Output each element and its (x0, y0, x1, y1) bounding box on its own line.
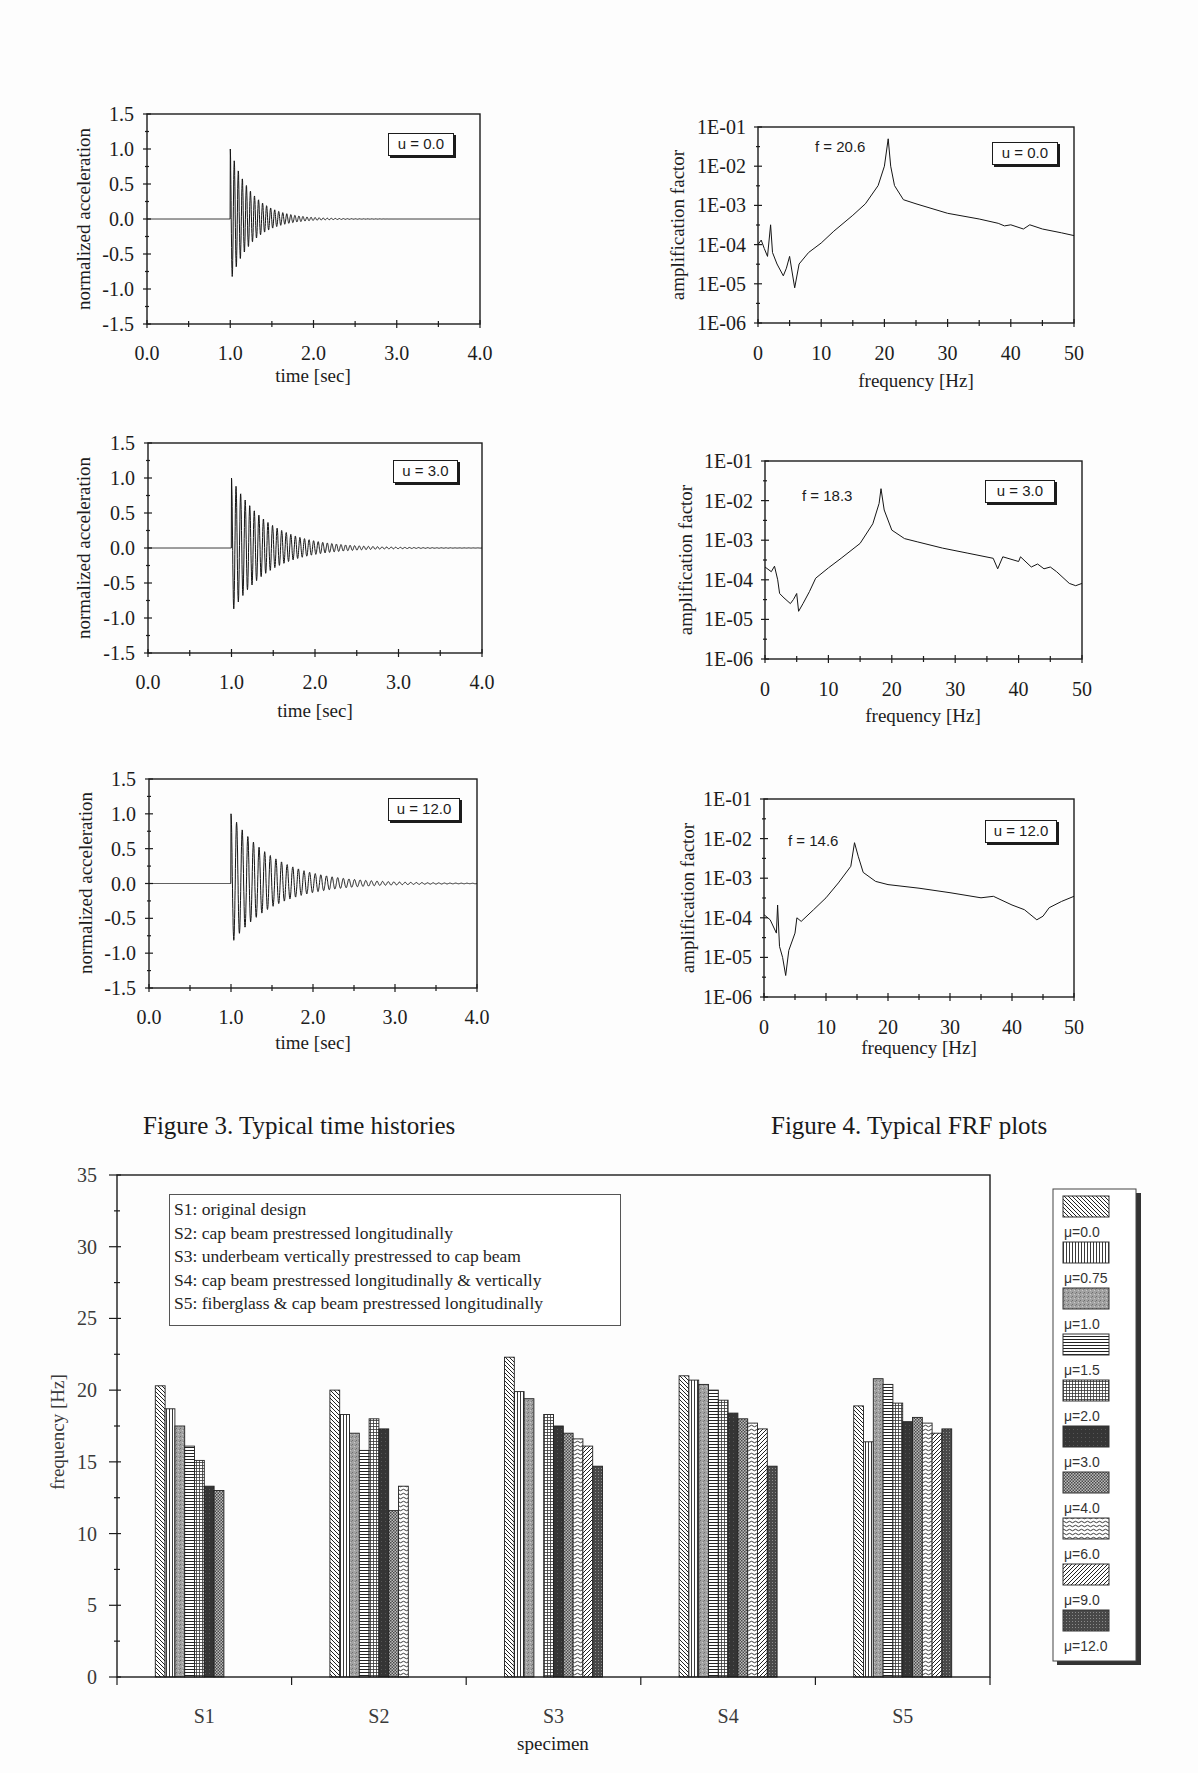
y-tick-label: 0.0 (110, 537, 135, 559)
y-tick-label: 0.5 (109, 173, 134, 195)
legend-label: μ=0.0 (1064, 1224, 1100, 1240)
bar (748, 1423, 758, 1677)
bar (593, 1466, 603, 1677)
y-tick-label: 1E-05 (697, 273, 746, 295)
bar (873, 1379, 883, 1677)
bar (932, 1433, 942, 1677)
figure-4-caption: Figure 4. Typical FRF plots (771, 1111, 1047, 1141)
bar (699, 1384, 709, 1677)
damping-annotation-box: u = 3.0 (393, 460, 458, 483)
x-tick-label: 20 (878, 1016, 898, 1038)
x-tick-label: 50 (1072, 678, 1092, 700)
x-tick-label: 0.0 (136, 671, 161, 693)
legend-label: μ=4.0 (1064, 1500, 1100, 1516)
bar (155, 1386, 165, 1677)
damping-annotation-box: u = 12.0 (985, 820, 1057, 843)
y-axis-title: normalized acceleration (76, 792, 95, 974)
bar (922, 1423, 932, 1677)
y-tick-label: 0.0 (109, 208, 134, 230)
frf-curve-line (765, 489, 1082, 612)
y-tick-label: 1E-05 (703, 946, 752, 968)
bar (185, 1446, 195, 1677)
y-tick-label: 0.0 (111, 873, 136, 895)
specimen-description-legend: S1: original design S2: cap beam prestre… (169, 1194, 621, 1326)
bar (738, 1419, 748, 1677)
x-axis-title: time [sec] (277, 701, 352, 720)
legend-label: μ=2.0 (1064, 1408, 1100, 1424)
bar (903, 1422, 913, 1677)
bar (175, 1426, 185, 1677)
y-tick-label: -1.0 (102, 278, 134, 300)
y-tick-label: -1.0 (103, 607, 135, 629)
x-tick-label: 0.0 (137, 1006, 162, 1028)
peak-frequency-label: f = 20.6 (815, 139, 865, 154)
damping-annotation-box: u = 12.0 (388, 798, 460, 821)
y-tick-label: 20 (77, 1379, 97, 1401)
bar (573, 1439, 583, 1677)
figure-3-caption: Figure 3. Typical time histories (143, 1111, 455, 1141)
y-tick-label: 1E-04 (697, 234, 746, 256)
x-axis-title: time [sec] (275, 1033, 350, 1052)
specimen-description: S2: cap beam prestressed longitudinally (174, 1222, 620, 1246)
acceleration-signal-line (148, 478, 482, 609)
x-tick-label: 40 (1002, 1016, 1022, 1038)
acceleration-signal-line (147, 149, 480, 277)
legend-swatch-gray-stipple (1063, 1288, 1109, 1309)
x-tick-label: 1.0 (219, 671, 244, 693)
y-tick-label: 1E-05 (704, 608, 753, 630)
bar (359, 1450, 369, 1677)
y-tick-label: 1.0 (111, 803, 136, 825)
bar (369, 1419, 379, 1677)
bar (350, 1433, 360, 1677)
bar (767, 1466, 777, 1677)
bar (165, 1409, 175, 1677)
x-tick-label: 40 (1009, 678, 1029, 700)
y-axis-title: amplification factor (676, 485, 695, 635)
bar (709, 1390, 719, 1677)
y-tick-label: 1E-03 (704, 529, 753, 551)
y-tick-label: 1E-03 (703, 867, 752, 889)
bar (583, 1446, 593, 1677)
y-tick-label: 1.5 (111, 768, 136, 790)
x-tick-label: 20 (874, 342, 894, 364)
y-tick-label: 1E-01 (703, 788, 752, 810)
x-tick-label: 3.0 (383, 1006, 408, 1028)
y-tick-label: 1E-06 (703, 986, 752, 1008)
x-axis-title: frequency [Hz] (865, 706, 981, 725)
specimen-description: S5: fiberglass & cap beam prestressed lo… (174, 1292, 620, 1316)
y-tick-label: -0.5 (102, 243, 134, 265)
paper-figure-page: 1.51.00.50.0-0.5-1.0-1.50.01.02.03.04.0 … (0, 0, 1198, 1773)
y-tick-label: 0.5 (111, 838, 136, 860)
category-label: S5 (892, 1705, 913, 1727)
specimen-description: S1: original design (174, 1198, 620, 1222)
category-label: S1 (194, 1705, 215, 1727)
x-tick-label: 3.0 (384, 342, 409, 364)
x-tick-label: 20 (882, 678, 902, 700)
bar (563, 1433, 573, 1677)
x-tick-label: 30 (945, 678, 965, 700)
x-tick-label: 4.0 (465, 1006, 490, 1028)
y-tick-label: 1.0 (110, 467, 135, 489)
x-tick-label: 4.0 (468, 342, 493, 364)
x-tick-label: 10 (816, 1016, 836, 1038)
x-tick-label: 0 (760, 678, 770, 700)
legend-label: μ=3.0 (1064, 1454, 1100, 1470)
bar (883, 1384, 893, 1677)
bar (718, 1400, 728, 1677)
legend-shadow (1136, 1193, 1141, 1665)
bar (514, 1392, 524, 1677)
y-tick-label: 1E-01 (697, 116, 746, 138)
frf-curve-line (764, 843, 1074, 976)
y-tick-label: 15 (77, 1451, 97, 1473)
legend-swatch-dark-dotted (1063, 1610, 1109, 1631)
y-tick-label: 5 (87, 1594, 97, 1616)
y-tick-label: 1.5 (109, 103, 134, 125)
y-tick-label: 1.5 (110, 432, 135, 454)
x-tick-label: 4.0 (470, 671, 495, 693)
x-tick-label: 2.0 (303, 671, 328, 693)
x-tick-label: 2.0 (301, 342, 326, 364)
specimen-description: S3: underbeam vertically prestressed to … (174, 1245, 620, 1269)
bar (942, 1429, 952, 1677)
bar (689, 1380, 699, 1677)
legend-swatch-grid (1063, 1380, 1109, 1401)
